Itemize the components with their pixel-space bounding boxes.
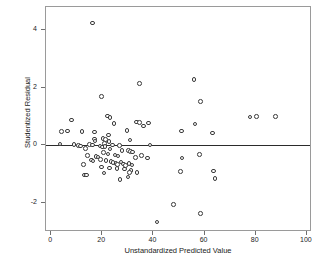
data-point — [101, 150, 106, 155]
data-point — [108, 147, 113, 152]
x-tick-mark — [50, 231, 51, 235]
data-point — [130, 163, 135, 168]
data-point — [145, 156, 150, 161]
x-tick-mark — [306, 231, 307, 235]
data-point — [179, 129, 184, 134]
data-point — [130, 150, 135, 155]
data-point — [115, 166, 120, 171]
data-point — [171, 202, 176, 207]
data-point — [104, 158, 109, 163]
data-point — [273, 114, 278, 119]
scatter-plot-figure: 020406080100 420-2 Unstandardized Predic… — [0, 0, 324, 261]
data-point — [116, 154, 121, 159]
data-point — [90, 21, 95, 26]
data-point — [92, 130, 97, 135]
data-point — [103, 144, 108, 149]
data-points-layer — [46, 7, 310, 230]
data-point — [85, 153, 90, 158]
data-point — [126, 175, 131, 180]
data-point — [192, 77, 197, 82]
data-point — [65, 129, 70, 134]
data-point — [58, 142, 63, 147]
data-point — [118, 177, 123, 182]
data-point — [248, 115, 253, 120]
y-axis-title: Studentized Residual — [23, 38, 32, 188]
data-point — [211, 169, 216, 174]
x-tick-label: 100 — [294, 236, 318, 243]
x-tick-label: 20 — [89, 236, 113, 243]
data-point — [117, 143, 122, 148]
data-point — [178, 169, 183, 174]
data-point — [91, 159, 96, 164]
y-tick-mark — [41, 87, 45, 88]
data-point — [125, 128, 130, 133]
data-point — [139, 153, 144, 158]
data-point — [213, 176, 218, 181]
data-point — [210, 131, 215, 136]
y-tick-mark — [41, 144, 45, 145]
data-point — [133, 155, 138, 160]
x-tick-label: 0 — [38, 236, 62, 243]
data-point — [59, 129, 64, 134]
data-point — [120, 148, 125, 153]
data-point — [106, 152, 111, 157]
x-tick-mark — [255, 231, 256, 235]
data-point — [141, 124, 146, 129]
data-point — [98, 157, 103, 162]
data-point — [148, 143, 153, 148]
x-tick-mark — [101, 231, 102, 235]
data-point — [193, 122, 198, 127]
x-tick-label: 80 — [243, 236, 267, 243]
data-point — [198, 211, 203, 216]
data-point — [112, 121, 117, 126]
data-point — [99, 94, 104, 99]
data-point — [81, 162, 86, 167]
x-tick-mark — [204, 231, 205, 235]
data-point — [108, 115, 113, 120]
data-point — [83, 146, 88, 151]
x-axis-title: Unstandardized Predicted Value — [45, 246, 311, 255]
y-tick-mark — [41, 29, 45, 30]
data-point — [137, 81, 142, 86]
data-point — [107, 166, 112, 171]
data-point — [198, 99, 203, 104]
data-point — [84, 173, 89, 178]
y-tick-label: -2 — [0, 198, 37, 205]
x-tick-mark — [152, 231, 153, 235]
y-tick-label: 4 — [0, 25, 37, 32]
plot-area — [45, 6, 311, 231]
data-point — [135, 170, 140, 175]
x-tick-label: 60 — [192, 236, 216, 243]
data-point — [254, 114, 259, 119]
y-tick-mark — [41, 202, 45, 203]
x-tick-label: 40 — [140, 236, 164, 243]
data-point — [128, 138, 133, 143]
data-point — [102, 171, 107, 176]
data-point — [69, 118, 74, 123]
data-point — [99, 165, 104, 170]
data-point — [90, 143, 95, 148]
data-point — [197, 152, 202, 157]
data-point — [146, 121, 151, 126]
data-point — [155, 220, 160, 225]
data-point — [78, 144, 83, 149]
data-point — [80, 129, 85, 134]
data-point — [180, 156, 185, 161]
